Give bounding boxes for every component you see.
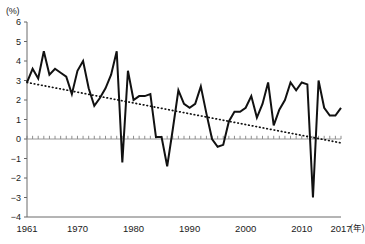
y-tick-label: 4 (16, 56, 21, 66)
y-tick-label: −4 (11, 212, 21, 222)
x-tick-label: 1980 (123, 223, 144, 234)
x-tick-label: 1990 (179, 223, 200, 234)
y-axis-tick-labels: 6543210−1−2−3−4 (11, 17, 21, 222)
x-axis-tick-labels: 1961197019801990200020102017 (16, 223, 351, 234)
axis-lines (24, 22, 341, 217)
x-axis-unit-label: (年) (350, 223, 365, 233)
y-tick-label: 6 (16, 17, 21, 27)
y-tick-label: −3 (11, 193, 21, 203)
y-tick-label: 0 (16, 134, 21, 144)
y-tick-label: 5 (16, 37, 21, 47)
x-tick-label: 2017 (330, 223, 351, 234)
x-tick-label: 1970 (67, 223, 88, 234)
x-tick-label: 2000 (235, 223, 256, 234)
zero-line-ticks (27, 136, 341, 139)
y-tick-label: −2 (11, 173, 21, 183)
trend-line-series (27, 82, 341, 142)
y-tick-label: 2 (16, 95, 21, 105)
y-tick-label: 3 (16, 76, 21, 86)
x-tick-label: 2010 (291, 223, 312, 234)
growth-rate-series (27, 51, 341, 197)
y-tick-label: −1 (11, 154, 21, 164)
y-tick-label: 1 (16, 115, 21, 125)
x-tick-label: 1961 (16, 223, 37, 234)
